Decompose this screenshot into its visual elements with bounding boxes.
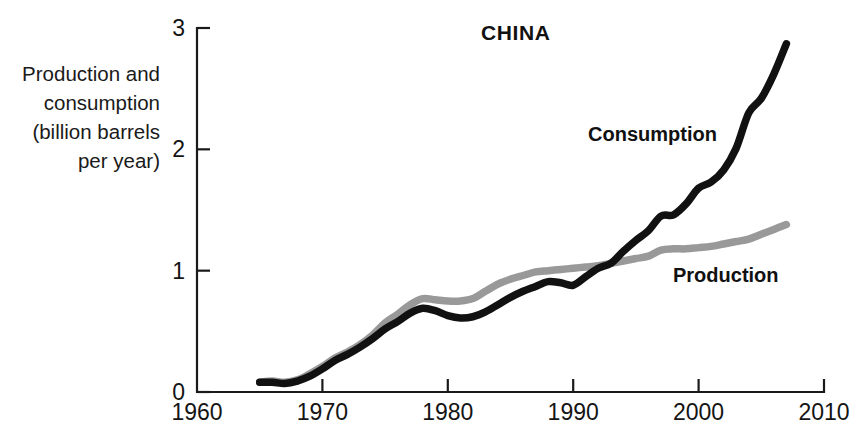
- series-label-production: Production: [673, 264, 779, 286]
- x-tick-label-1970: 1970: [297, 399, 348, 425]
- line-chart: Production and consumption (billion barr…: [0, 0, 866, 438]
- y-tick-label-2: 2: [172, 136, 185, 162]
- y-axis-ticks: [197, 28, 210, 392]
- x-tick-label-2010: 2010: [798, 399, 849, 425]
- x-axis-tick-labels: 196019701980199020002010: [171, 399, 849, 425]
- plot-axes: [197, 28, 824, 392]
- series-line-consumption: [260, 44, 787, 384]
- x-tick-label-1990: 1990: [548, 399, 599, 425]
- x-tick-label-2000: 2000: [673, 399, 724, 425]
- y-axis-title-line-2: consumption: [44, 91, 160, 114]
- y-axis-title: Production and consumption (billion barr…: [22, 62, 160, 172]
- chart-title: CHINA: [481, 21, 551, 44]
- x-axis-ticks: [322, 379, 824, 392]
- y-axis-title-line-1: Production and: [22, 62, 160, 85]
- x-tick-label-1980: 1980: [422, 399, 473, 425]
- y-axis-title-line-4: per year): [78, 149, 160, 172]
- chart-figure: Production and consumption (billion barr…: [0, 0, 866, 438]
- y-tick-label-1: 1: [172, 258, 185, 284]
- y-tick-label-3: 3: [172, 15, 185, 41]
- axis-frame: [197, 28, 824, 392]
- plot-series: [260, 44, 787, 384]
- y-axis-tick-labels: 0123: [172, 15, 185, 405]
- x-tick-label-1960: 1960: [171, 399, 222, 425]
- series-label-consumption: Consumption: [588, 123, 717, 145]
- y-axis-title-line-3: (billion barrels: [32, 120, 160, 143]
